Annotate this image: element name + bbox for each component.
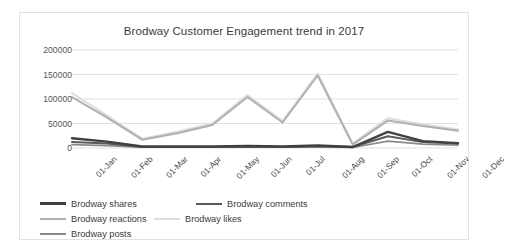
legend-item[interactable]: Brodway shares bbox=[40, 196, 192, 211]
chart-container: Brodway Customer Engagement trend in 201… bbox=[19, 12, 469, 240]
x-axis-tick-label: 01-Jan bbox=[94, 154, 119, 179]
legend-color-swatch bbox=[154, 218, 180, 220]
x-axis-tick-label: 01-Oct bbox=[409, 154, 434, 179]
legend-item-label: Brodway comments bbox=[227, 199, 308, 209]
x-axis-tick-label: 01-Nov bbox=[445, 154, 471, 180]
legend-color-swatch bbox=[196, 203, 222, 205]
x-axis-tick-label: 01-May bbox=[235, 154, 262, 181]
legend-item[interactable]: Brodway comments bbox=[196, 196, 346, 211]
legend-color-swatch bbox=[40, 233, 66, 235]
legend-color-swatch bbox=[40, 202, 66, 205]
x-axis-tick-label: 01-Aug bbox=[340, 154, 366, 180]
x-axis-tick-label: 01-Sep bbox=[375, 154, 401, 180]
legend-item-label: Brodway reactions bbox=[71, 214, 147, 224]
x-axis-tick-label: 01-Jul bbox=[303, 154, 326, 177]
legend-item[interactable]: Brodway reactions bbox=[40, 211, 150, 226]
legend-color-swatch bbox=[40, 218, 66, 220]
legend-item[interactable]: Brodway likes bbox=[154, 211, 306, 226]
x-axis-tick-label: 01-Mar bbox=[164, 154, 190, 180]
legend-item-label: Brodway likes bbox=[185, 214, 242, 224]
legend-item-label: Brodway posts bbox=[71, 229, 131, 239]
legend-item[interactable]: Brodway posts bbox=[40, 226, 190, 241]
legend-item-label: Brodway shares bbox=[71, 199, 137, 209]
x-axis-tick-label: 01-Apr bbox=[199, 154, 224, 179]
x-axis-tick-label: 01-Feb bbox=[129, 154, 155, 180]
x-axis-tick-label: 01-Dec bbox=[480, 154, 506, 180]
x-axis-tick-label: 01-Jun bbox=[269, 154, 294, 179]
chart-legend: Brodway sharesBrodway commentsBrodway re… bbox=[40, 196, 452, 241]
